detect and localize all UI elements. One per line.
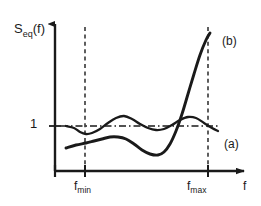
curve-b-label: (b) [222, 35, 237, 47]
unity-level-label: 1 [30, 117, 37, 130]
y-axis-label-suffix: (f) [33, 21, 45, 36]
f-min-label-subscript: min [77, 185, 91, 195]
f-min-label: fmin [74, 180, 91, 195]
curve-b [66, 33, 210, 155]
curve-a [66, 116, 218, 134]
spectral-density-figure: Seq(f) 1 fmin fmax f (a) (b) [0, 0, 261, 206]
curve-a-label: (a) [224, 138, 239, 150]
x-axis-label: f [243, 180, 246, 192]
y-axis-label-base: S [14, 21, 23, 36]
y-axis-label-subscript: eq [23, 29, 33, 39]
f-max-label: fmax [187, 180, 206, 195]
y-axis-label: Seq(f) [14, 22, 45, 39]
f-max-label-subscript: max [190, 185, 206, 195]
